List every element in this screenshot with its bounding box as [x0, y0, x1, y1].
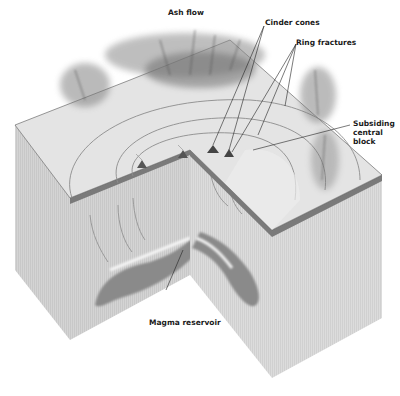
caldera-diagram: [0, 0, 400, 396]
label-subsiding-central-block: Subsiding central block: [353, 119, 395, 146]
label-ring-fractures: Ring fractures: [296, 38, 356, 47]
label-cinder-cones: Cinder cones: [265, 18, 320, 27]
label-line: block: [353, 137, 395, 146]
label-line: Subsiding: [353, 119, 395, 128]
label-magma-reservoir: Magma reservoir: [149, 318, 221, 327]
label-ash-flow: Ash flow: [168, 8, 204, 17]
label-line: central: [353, 128, 395, 137]
